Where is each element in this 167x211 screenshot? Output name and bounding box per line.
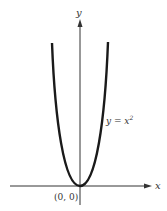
origin-label: (0, 0) bbox=[54, 192, 78, 202]
x-axis-arrow-icon bbox=[144, 184, 152, 189]
equation-label: y = x2 bbox=[105, 114, 133, 126]
parabola-diagram: y x (0, 0) y = x2 bbox=[0, 0, 167, 211]
y-axis-label: y bbox=[75, 7, 82, 18]
y-axis-arrow-icon bbox=[78, 19, 83, 27]
x-axis-label: x bbox=[155, 180, 161, 191]
